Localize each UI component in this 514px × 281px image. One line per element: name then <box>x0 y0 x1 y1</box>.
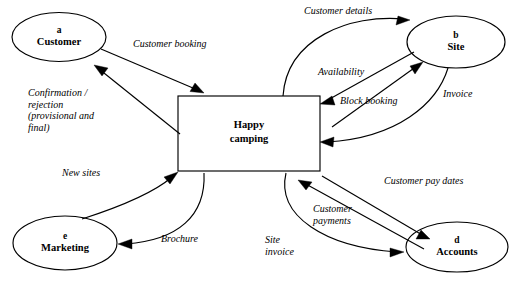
flow-label-customer-details[interactable]: Customer details <box>304 5 372 17</box>
flow-label-brochure[interactable]: Brochure <box>161 233 198 245</box>
arrow-head-invoice <box>320 137 334 147</box>
flow-label-block-booking[interactable]: Block booking <box>340 95 397 107</box>
flow-label-site-invoice[interactable]: Site invoice <box>265 234 294 257</box>
dfd-diagram: a Customer b Site d Accounts e Marketing… <box>0 0 514 281</box>
entity-name-site: Site <box>448 41 465 52</box>
flow-label-new-sites[interactable]: New sites <box>62 167 100 179</box>
flow-line-customer-booking[interactable] <box>101 49 200 91</box>
arrow-head-customer-details <box>396 16 410 25</box>
entity-name-customer: Customer <box>37 36 82 47</box>
flow-label-availability[interactable]: Availability <box>318 66 364 78</box>
arrow-head-brochure <box>118 239 132 249</box>
entity-key-site: b <box>453 30 458 40</box>
flow-label-customer-pay-dates[interactable]: Customer pay dates <box>384 175 463 187</box>
process-label-line1: Happy <box>234 119 265 130</box>
flow-line-customer-details[interactable] <box>283 18 404 96</box>
arrow-head-customer-booking <box>190 83 204 93</box>
process-label-line2: camping <box>230 133 269 144</box>
flow-label-confirmation-rejection[interactable]: Confirmation / rejection (provisional an… <box>28 87 94 133</box>
entity-key-customer: a <box>57 25 62 35</box>
arrow-head-customer-payments <box>298 180 312 190</box>
flow-line-new-sites[interactable] <box>82 177 172 219</box>
entity-name-marketing: Marketing <box>41 242 90 253</box>
arrow-head-site-invoice <box>390 248 404 257</box>
flow-label-invoice[interactable]: Invoice <box>443 88 472 100</box>
diagram-canvas: a Customer b Site d Accounts e Marketing… <box>0 0 514 281</box>
entity-name-accounts: Accounts <box>436 246 477 257</box>
flow-label-customer-booking[interactable]: Customer booking <box>133 38 207 50</box>
entity-key-accounts: d <box>454 235 460 245</box>
arrow-head-block-booking <box>410 62 423 74</box>
flow-label-customer-payments[interactable]: Customer payments <box>313 203 352 226</box>
entity-key-marketing: e <box>63 231 67 241</box>
flow-line-confirmation-rejection[interactable] <box>99 69 180 134</box>
